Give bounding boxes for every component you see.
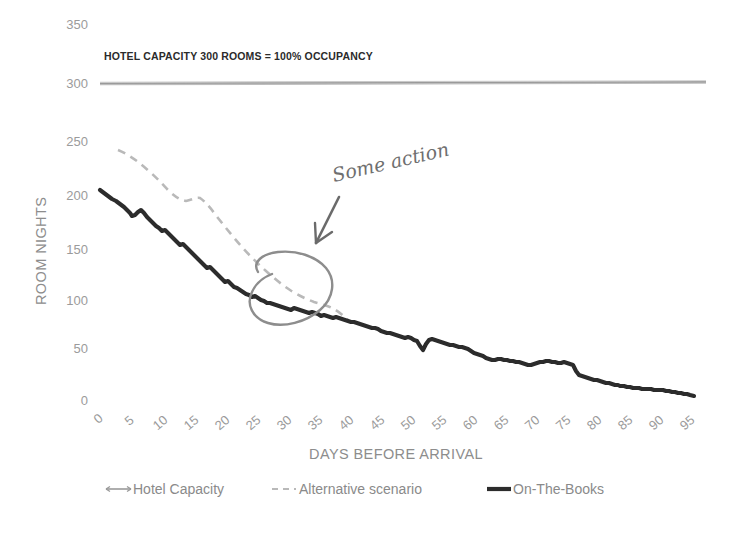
legend-item-on-the-books[interactable]: On-The-Books xyxy=(487,481,604,497)
x-tick-35: 35 xyxy=(305,412,326,433)
x-tick-50: 50 xyxy=(398,412,419,433)
legend-item-alternative-scenario[interactable]: Alternative scenario xyxy=(272,481,422,497)
x-tick-70: 70 xyxy=(522,412,543,433)
x-tick-80: 80 xyxy=(584,412,605,433)
legend-label-hotel-capacity: Hotel Capacity xyxy=(133,481,224,497)
x-axis-tick-labels: 0 5 10 15 20 25 30 35 40 45 50 55 60 65 … xyxy=(91,410,698,432)
y-tick-50: 50 xyxy=(74,341,88,356)
handwritten-note-line1: Some action xyxy=(330,138,451,186)
x-tick-30: 30 xyxy=(274,412,295,433)
x-tick-10: 10 xyxy=(150,412,171,433)
legend-item-hotel-capacity[interactable]: Hotel Capacity xyxy=(106,481,224,497)
y-tick-100: 100 xyxy=(66,293,88,308)
x-tick-20: 20 xyxy=(212,412,233,433)
series-hotel-capacity xyxy=(100,81,706,85)
chart-canvas: 350 300 250 200 150 100 50 0 ROOM NIGHTS… xyxy=(0,0,729,533)
chart-legend: Hotel Capacity Alternative scenario On-T… xyxy=(106,481,604,497)
y-tick-0: 0 xyxy=(81,393,88,408)
y-tick-350: 350 xyxy=(66,17,88,32)
x-tick-60: 60 xyxy=(460,412,481,433)
x-tick-0: 0 xyxy=(91,410,106,426)
x-tick-25: 25 xyxy=(243,412,264,433)
y-tick-250: 250 xyxy=(66,134,88,149)
handwritten-note: Some action xyxy=(330,138,451,186)
x-tick-95: 95 xyxy=(677,412,698,433)
capacity-annotation-text: HOTEL CAPACITY 300 ROOMS = 100% OCCUPANC… xyxy=(104,50,373,62)
y-axis-title: ROOM NIGHTS xyxy=(33,197,49,305)
legend-label-alternative-scenario: Alternative scenario xyxy=(299,481,422,497)
y-tick-150: 150 xyxy=(66,242,88,257)
x-tick-40: 40 xyxy=(336,412,357,433)
x-tick-45: 45 xyxy=(367,412,388,433)
series-on-the-books xyxy=(100,190,694,396)
x-axis-title: DAYS BEFORE ARRIVAL xyxy=(309,446,483,462)
x-tick-75: 75 xyxy=(553,412,574,433)
handwritten-arrow-annotation xyxy=(315,197,339,243)
chart-figure: 350 300 250 200 150 100 50 0 ROOM NIGHTS… xyxy=(0,0,729,533)
arrow-line-icon xyxy=(106,487,131,492)
x-tick-5: 5 xyxy=(122,412,137,428)
x-tick-85: 85 xyxy=(615,412,636,433)
y-axis-tick-labels: 350 300 250 200 150 100 50 0 xyxy=(66,17,88,408)
x-tick-15: 15 xyxy=(181,412,202,433)
x-tick-55: 55 xyxy=(429,412,450,433)
y-tick-200: 200 xyxy=(66,188,88,203)
x-tick-90: 90 xyxy=(646,412,667,433)
y-tick-300: 300 xyxy=(66,76,88,91)
x-tick-65: 65 xyxy=(491,412,512,433)
legend-label-on-the-books: On-The-Books xyxy=(513,481,604,497)
